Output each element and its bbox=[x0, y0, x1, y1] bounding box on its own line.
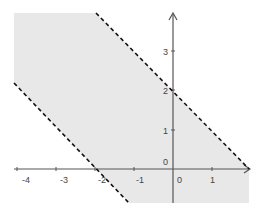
x-tick-label: 0 bbox=[177, 175, 182, 185]
x-tick-label: -3 bbox=[60, 175, 68, 185]
inequality-graph: -4 -3 -2 -1 0 1 3 2 1 0 bbox=[0, 0, 262, 214]
x-tick-label: -2 bbox=[98, 175, 106, 185]
x-tick-label: -4 bbox=[22, 175, 30, 185]
x-tick-label: 1 bbox=[210, 175, 215, 185]
x-tick-label: -1 bbox=[136, 175, 144, 185]
y-tick-label: 0 bbox=[163, 157, 168, 167]
y-tick-label: 1 bbox=[163, 126, 168, 136]
y-tick-label: 2 bbox=[163, 86, 168, 96]
y-tick-label: 3 bbox=[163, 47, 168, 57]
